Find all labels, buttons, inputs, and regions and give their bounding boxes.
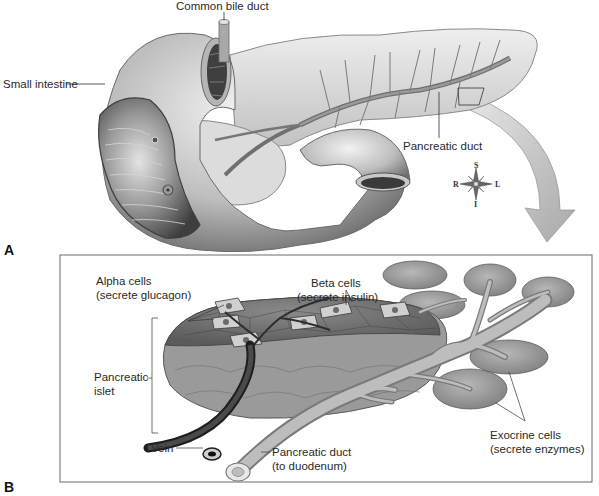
- compass-superior: S: [474, 161, 478, 170]
- panel-label-b: B: [4, 479, 14, 495]
- label-small-intestine: Small intestine: [3, 78, 78, 91]
- zoom-arrow-icon: [470, 95, 575, 242]
- label-pancreatic-islet-2: islet: [94, 385, 114, 398]
- label-alpha-cells-function: (secrete glucagon): [96, 289, 191, 302]
- label-pancreatic-duct-destination: (to duodenum): [272, 460, 347, 473]
- panel-label-a: A: [4, 242, 14, 258]
- label-alpha-cells: Alpha cells: [96, 275, 152, 288]
- label-pancreatic-islet: Pancreatic: [94, 371, 148, 384]
- label-beta-cells-function: (secrete insulin): [297, 291, 378, 304]
- label-exocrine-cells: Exocrine cells: [490, 429, 561, 442]
- diagram-artwork: [0, 0, 599, 496]
- label-vein: Vein: [151, 442, 173, 455]
- compass-rose-icon: [460, 168, 492, 200]
- pancreas-diagram: Common bile duct Small intestine Pancrea…: [0, 0, 599, 496]
- compass-right: R: [453, 180, 459, 189]
- compass-inferior: I: [474, 200, 477, 209]
- compass-left: L: [495, 180, 500, 189]
- label-exocrine-cells-function: (secrete enzymes): [490, 443, 585, 456]
- label-pancreatic-duct-a: Pancreatic duct: [403, 140, 482, 153]
- label-beta-cells: Beta cells: [311, 277, 361, 290]
- label-pancreatic-duct-b: Pancreatic duct: [272, 446, 351, 459]
- label-common-bile-duct: Common bile duct: [176, 0, 269, 13]
